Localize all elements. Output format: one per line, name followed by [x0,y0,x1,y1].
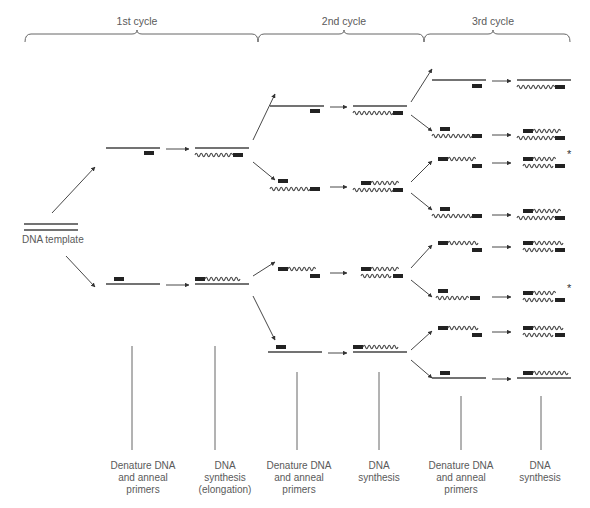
branch-arrow [411,280,432,297]
new-strand [533,291,556,295]
primer-box [233,153,243,157]
primer-box [278,179,288,183]
primer-box [361,181,371,185]
primer-box [393,188,403,192]
primer-box [310,109,320,113]
primer-box [438,241,448,245]
branch-arrow [411,69,432,102]
pcr-diagram: ** [0,0,590,508]
new-strand [533,129,561,133]
step-label-line: and anneal [416,472,506,484]
strand-row-c3-3: * [438,148,572,168]
dna-template-strands [24,224,78,230]
strand-rows: ** [106,80,572,379]
branch-arrow [253,162,275,180]
new-strand [436,296,469,300]
new-strand [448,241,478,245]
primer-box [144,151,154,155]
new-strand [432,214,472,218]
primer-box [438,289,448,293]
primer-box [472,164,482,168]
primer-box [523,326,533,330]
new-strand [205,277,240,281]
primer-box [523,291,533,295]
branch-arrow [66,256,95,287]
step-label-line: primers [98,484,188,496]
strand-row-c3-1 [432,80,571,89]
cycle-label: 2nd cycle [314,15,374,27]
cycle-brace [25,30,258,42]
primer-box [472,214,482,218]
step-label: Denature DNAand annealprimers [254,460,344,496]
step-label-line: Denature DNA [416,460,506,472]
step-label-line: primers [416,484,506,496]
step-label: Denature DNAand annealprimers [98,460,188,496]
branch-arrow [411,161,432,182]
new-strand [523,248,553,252]
new-strand [353,111,393,115]
primer-box [555,85,565,89]
branch-arrow [253,262,275,276]
new-strand [371,181,399,185]
branch-arrow [411,360,432,378]
primer-box [438,157,448,161]
step-label-line: synthesis [495,472,585,484]
new-strand [523,164,553,168]
branch-arrow [411,331,432,350]
new-strand [517,216,555,220]
primer-box [470,296,480,300]
primer-box [440,207,450,211]
primer-box [472,333,482,337]
primer-box [393,111,403,115]
primer-box [393,274,403,278]
cycle-braces [25,30,570,42]
step-label-line: synthesis [334,472,424,484]
primer-box [555,248,565,252]
primer-box [438,326,448,330]
strand-row-c2-4 [268,345,407,353]
primer-box [555,216,565,220]
strand-row-c2-3 [278,267,403,278]
primer-box [523,371,533,375]
primer-box [440,127,450,131]
strand-row-c3-2 [432,127,565,140]
new-strand [533,157,556,161]
primer-box [523,157,533,161]
primer-box [523,129,533,133]
branch-arrow [253,296,275,340]
primer-box [278,267,288,271]
primer-box [555,136,565,140]
strand-row-c3-4 [432,207,565,220]
primer-box [361,267,371,271]
strand-row-c1-bot [106,277,249,285]
step-label-line: and anneal [254,472,344,484]
primer-box [555,164,565,168]
primer-box [114,277,124,281]
strand-row-c2-1 [270,106,407,115]
step-label-line: and anneal [98,472,188,484]
step-label: Denature DNAand annealprimers [416,460,506,496]
asterisk-marker: * [567,282,572,294]
cycle-brace [258,30,424,42]
strand-row-c3-5 [438,241,565,252]
primer-box [523,209,533,213]
new-strand [533,371,568,375]
new-strand [353,188,393,192]
strand-row-c3-6: * [436,282,572,302]
new-strand [371,267,399,271]
step-label-line: Denature DNA [98,460,188,472]
strand-row-c3-7 [438,326,565,337]
primer-box [310,187,320,191]
primer-box [353,345,363,349]
new-strand [448,326,478,330]
new-strand [270,187,310,191]
primer-box [555,298,565,302]
new-strand [363,345,398,349]
primer-box [472,84,482,88]
new-strand [517,85,555,89]
new-strand [523,298,553,302]
dna-template-label: DNA template [22,234,84,246]
step-label-line: Denature DNA [254,460,344,472]
new-strand [533,209,561,213]
new-strand [361,274,391,278]
